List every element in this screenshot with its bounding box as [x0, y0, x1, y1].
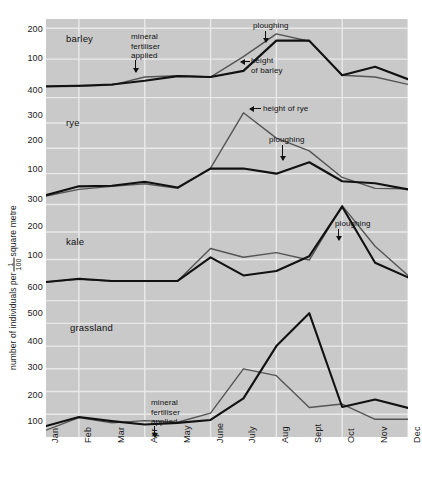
annotation-ploughing-barley: ploughing: [253, 21, 289, 31]
x-tick-label: Aug: [280, 426, 290, 443]
data-series-line: [46, 34, 408, 87]
y-tick-label: 300: [9, 362, 43, 372]
y-tick-label: 300: [9, 110, 43, 120]
y-tick-label: 100: [9, 250, 43, 260]
annotation-mineral-fertiliser-grassland: mineral fertiliser applied: [151, 398, 180, 427]
x-tick-label: Dec: [412, 426, 422, 443]
arrow-down-icon-fertiliser-barley: [135, 60, 136, 72]
arrow-down-icon-ploughing-kale: [338, 229, 339, 240]
arrow-down-icon-ploughing-barley: [265, 31, 266, 42]
x-tick-label: Sept: [313, 424, 323, 443]
x-tick-label: Oct: [346, 428, 356, 443]
arrow-down-icon-ploughing-rye: [282, 145, 283, 160]
panel-kale-plot: [46, 199, 408, 287]
y-tick-label: 100: [9, 416, 43, 426]
panel-label-grassland: grassland: [70, 322, 113, 333]
data-series-line: [46, 207, 408, 282]
annotation-ploughing-kale: ploughing: [335, 219, 371, 229]
y-tick-label: 400: [9, 85, 43, 95]
x-tick-label: May: [182, 425, 192, 443]
data-series-line: [46, 113, 408, 196]
annotation-mineral-fertiliser-barley: mineral fertiliser applied: [131, 32, 160, 61]
y-tick-label: 600: [9, 282, 43, 292]
data-series-line: [46, 41, 408, 87]
panel-grassland-plot: [46, 287, 408, 437]
panel-kale: [46, 199, 408, 287]
panel-label-barley: barley: [66, 33, 93, 44]
y-tick-label: 200: [9, 221, 43, 231]
y-tick-label: 500: [9, 308, 43, 318]
arrow-left-icon-height-barley: [241, 61, 250, 62]
panel-label-rye: rye: [66, 117, 80, 128]
x-tick-label: Apr: [149, 428, 159, 443]
data-series-line: [46, 369, 408, 430]
y-tick-label: 200: [9, 390, 43, 400]
panel-barley: [46, 19, 408, 90]
y-tick-label: 300: [9, 194, 43, 204]
data-series-line: [46, 162, 408, 195]
data-series-line: [46, 206, 408, 282]
x-tick-label: Feb: [83, 427, 93, 443]
y-tick-label: 200: [9, 135, 43, 145]
y-tick-label: 200: [9, 24, 43, 34]
panel-label-kale: kale: [66, 236, 84, 247]
y-tick-label: 100: [9, 53, 43, 63]
x-tick-label: July: [247, 426, 257, 443]
annotation-height-of-rye: height of rye: [263, 104, 308, 114]
panel-grassland: [46, 287, 408, 437]
x-tick-label: Mar: [116, 427, 126, 443]
panel-barley-plot: [46, 19, 408, 90]
x-tick-label: June: [215, 423, 225, 443]
arrow-left-icon-height-rye: [250, 108, 261, 109]
panel-rye: [46, 90, 408, 199]
y-tick-label: 100: [9, 164, 43, 174]
annotation-height-of-barley: height of barley: [251, 56, 283, 75]
annotation-ploughing-rye: ploughing: [269, 135, 305, 145]
y-axis: 2001004003002001003002001006005004003002…: [0, 0, 43, 495]
panel-rye-plot: [46, 90, 408, 199]
x-tick-label: Nov: [379, 426, 389, 443]
x-tick-label: Jan: [50, 428, 60, 443]
y-tick-label: 400: [9, 336, 43, 346]
